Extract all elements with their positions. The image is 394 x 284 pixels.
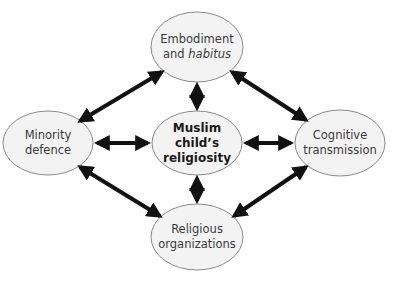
arrow-religious-cognitive: [234, 167, 306, 216]
node-embodiment-line2-prefix: and: [163, 47, 188, 61]
node-embodiment-label: Embodiment and habitus: [160, 32, 233, 62]
node-religious-line1: Religious: [171, 222, 223, 236]
node-center-line2: child’s: [175, 136, 219, 150]
arrow-religious-minority: [80, 167, 160, 216]
node-cognitive-line2: transmission: [303, 143, 376, 157]
node-minority-label: Minority defence: [25, 128, 72, 158]
node-embodiment-line1: Embodiment: [160, 32, 233, 46]
node-center-label: Muslim child’s religiosity: [163, 121, 231, 166]
arrow-embodiment-cognitive: [232, 72, 306, 120]
node-religious-label: Religious organizations: [158, 222, 236, 252]
node-minority-line2: defence: [25, 143, 71, 157]
node-embodiment-line2-italic: habitus: [188, 47, 231, 61]
node-center-line3: religiosity: [163, 151, 231, 165]
node-center-line1: Muslim: [173, 121, 221, 135]
node-minority-line1: Minority: [25, 128, 72, 142]
node-religious-line2: organizations: [158, 237, 236, 251]
node-cognitive-line1: Cognitive: [313, 128, 367, 142]
arrow-embodiment-minority: [80, 72, 162, 121]
node-cognitive-label: Cognitive transmission: [303, 128, 376, 158]
